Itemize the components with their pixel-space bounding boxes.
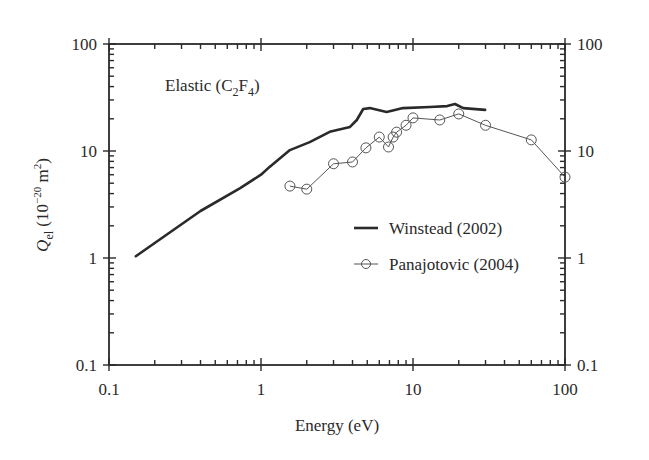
chart: 0.1110100 0.1110100 0.1110100 Elastic (C…: [0, 0, 649, 460]
x-tick-label: 100: [552, 380, 578, 399]
y-tick-label-right: 1: [577, 249, 586, 268]
legend-item-panajotovic: Panajotovic (2004): [354, 255, 519, 274]
svg-text:Panajotovic (2004): Panajotovic (2004): [389, 255, 519, 274]
y-axis-title: Qel (10−20 m2): [31, 158, 56, 252]
y-tick-label-right: 10: [577, 142, 594, 161]
y-tick-label: 100: [72, 35, 98, 54]
x-tick-label: 10: [405, 380, 422, 399]
x-tick-label: 1: [257, 380, 266, 399]
legend-item-winstead: Winstead (2002): [354, 219, 502, 238]
y-tick-label: 10: [80, 142, 97, 161]
data-series: [136, 104, 570, 256]
y-tick-labels: 0.1110100: [72, 35, 98, 375]
x-axis-title: Energy (eV): [295, 416, 379, 435]
y-tick-label-right: 0.1: [577, 356, 598, 375]
y-tick-label-right: 100: [577, 35, 603, 54]
legend: Winstead (2002) Panajotovic (2004): [354, 219, 519, 274]
chart-annotation: Elastic (C2F4): [165, 76, 260, 99]
x-tick-label: 0.1: [98, 380, 119, 399]
x-tick-labels: 0.1110100: [98, 380, 577, 399]
svg-text:Winstead (2002): Winstead (2002): [389, 219, 502, 238]
y-tick-label: 0.1: [76, 356, 97, 375]
y-tick-label: 1: [89, 249, 98, 268]
series-panajotovic: [285, 109, 570, 194]
y-tick-labels-right: 0.1110100: [577, 35, 603, 375]
